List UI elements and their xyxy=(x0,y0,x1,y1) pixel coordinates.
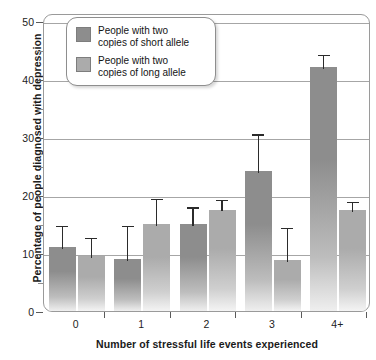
y-tick-mark xyxy=(36,312,43,313)
y-axis-ticks: 01020304050 xyxy=(6,0,34,360)
error-bar-line xyxy=(91,238,92,259)
legend-label-long-allele: People with two copies of long allele xyxy=(98,55,186,78)
error-bar-line xyxy=(323,55,324,70)
x-tick-mark xyxy=(235,312,236,318)
error-bar-cap xyxy=(122,226,134,227)
error-bar-cap xyxy=(347,202,359,203)
bar-chart: Percentage of people diagnosed with depr… xyxy=(0,0,376,360)
error-bar-line xyxy=(221,200,222,212)
error-bar-line xyxy=(287,228,288,262)
y-minor-tick-mark xyxy=(38,167,43,168)
y-minor-tick-mark xyxy=(38,51,43,52)
x-tick-label: 1 xyxy=(138,318,144,330)
legend-item-short-allele: People with two copies of short allele xyxy=(76,25,207,48)
legend-swatch-long-allele xyxy=(76,57,91,72)
legend-label-short-allele-line2: copies of short allele xyxy=(98,37,189,49)
y-tick-mark xyxy=(36,196,43,197)
error-bar-line xyxy=(352,202,353,212)
error-bar-cap xyxy=(151,199,163,200)
y-tick-label: 20 xyxy=(8,191,34,202)
legend-swatch-short-allele xyxy=(76,27,91,42)
y-tick-label: 50 xyxy=(8,17,34,28)
y-tick-label: 0 xyxy=(8,307,34,318)
legend-label-short-allele: People with two copies of short allele xyxy=(98,25,189,48)
error-bar-cap xyxy=(281,228,293,229)
error-bar-line xyxy=(62,226,63,249)
x-tick-mark xyxy=(366,312,367,318)
x-tick-mark xyxy=(170,312,171,318)
y-minor-tick-mark xyxy=(38,109,43,110)
y-tick-mark xyxy=(36,22,43,23)
error-bar-cap xyxy=(187,207,199,208)
y-tick-mark xyxy=(36,138,43,139)
legend-label-long-allele-line1: People with two xyxy=(98,55,186,67)
x-tick-label: 4+ xyxy=(331,318,343,330)
legend-label-short-allele-line1: People with two xyxy=(98,25,189,37)
error-bar-cap xyxy=(216,200,228,201)
error-bar-line xyxy=(156,199,157,226)
error-bar-cap xyxy=(318,55,330,56)
error-bar-cap xyxy=(85,238,97,239)
legend-label-long-allele-line2: copies of long allele xyxy=(98,67,186,79)
y-tick-label: 10 xyxy=(8,249,34,260)
y-minor-tick-mark xyxy=(38,225,43,226)
error-bar-line xyxy=(192,207,193,226)
y-tick-mark xyxy=(36,80,43,81)
chart-legend: People with two copies of short allele P… xyxy=(66,17,216,86)
x-tick-mark xyxy=(301,312,302,318)
y-tick-mark xyxy=(36,254,43,255)
legend-item-long-allele: People with two copies of long allele xyxy=(76,55,207,78)
x-tick-label: 3 xyxy=(269,318,275,330)
x-tick-label: 0 xyxy=(73,318,79,330)
x-axis-title: Number of stressful life events experien… xyxy=(40,338,374,350)
y-tick-label: 30 xyxy=(8,133,34,144)
x-tick-label: 2 xyxy=(204,318,210,330)
x-tick-mark xyxy=(104,312,105,318)
error-bar-line xyxy=(127,226,128,261)
y-tick-label: 40 xyxy=(8,75,34,86)
y-minor-tick-mark xyxy=(38,283,43,284)
error-bar-cap xyxy=(252,134,264,135)
error-bar-line xyxy=(258,134,259,172)
error-bar-cap xyxy=(56,226,68,227)
